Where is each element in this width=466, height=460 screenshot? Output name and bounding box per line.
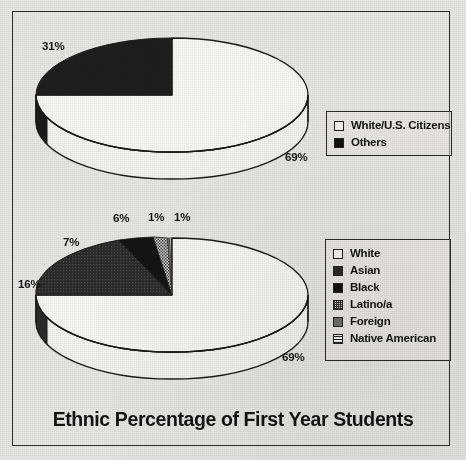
legend-item[interactable]: White/U.S. Citizens	[334, 118, 443, 134]
legend-item[interactable]: Native American	[333, 331, 442, 347]
pie-two-label-foreign: 1%	[148, 211, 164, 223]
legend-label: Asian	[350, 265, 380, 277]
legend-swatch-native-american-icon	[333, 334, 343, 344]
legend-swatch-foreign-icon	[333, 317, 343, 327]
pie-two-label-latino: 6%	[113, 212, 129, 224]
legend-item[interactable]: Others	[334, 135, 443, 151]
legend-item[interactable]: Black	[333, 280, 442, 296]
legend-label: Foreign	[350, 316, 390, 328]
legend-swatch-others-icon	[334, 138, 344, 148]
pie-chart-one	[36, 38, 308, 179]
pie-two-label-white: 69%	[282, 351, 304, 363]
legend-label: Black	[350, 282, 379, 294]
legend-swatch-asian-icon	[333, 266, 343, 276]
legend-label: Others	[351, 137, 387, 149]
legend-item[interactable]: Latino/a	[333, 297, 442, 313]
pie-chart-two	[36, 237, 308, 379]
page-root: 31% 69% White/U.S. Citizens Others 6% 1%…	[0, 0, 466, 460]
legend-swatch-white-icon	[333, 249, 343, 259]
pie-one-label-white: 69%	[285, 151, 307, 163]
pie-two-label-black: 7%	[63, 236, 79, 248]
pie-one-label-others: 31%	[42, 40, 64, 52]
legend-label: Native American	[350, 333, 436, 345]
legend-chart-two: White Asian Black Latino/a Foreign Nativ…	[325, 239, 451, 361]
legend-item[interactable]: Foreign	[333, 314, 442, 330]
legend-label: White	[350, 248, 380, 260]
figure-title: Ethnic Percentage of First Year Students	[0, 408, 466, 431]
legend-chart-one: White/U.S. Citizens Others	[326, 111, 452, 156]
legend-label: Latino/a	[350, 299, 392, 311]
legend-swatch-latino-icon	[333, 300, 343, 310]
legend-swatch-black-icon	[333, 283, 343, 293]
pie-chart-group	[0, 0, 466, 460]
legend-item[interactable]: Asian	[333, 263, 442, 279]
pie-two-label-asian: 16%	[18, 278, 40, 290]
legend-swatch-white-icon	[334, 121, 344, 131]
legend-item[interactable]: White	[333, 246, 442, 262]
pie-two-label-native: 1%	[174, 211, 190, 223]
legend-label: White/U.S. Citizens	[351, 120, 450, 132]
